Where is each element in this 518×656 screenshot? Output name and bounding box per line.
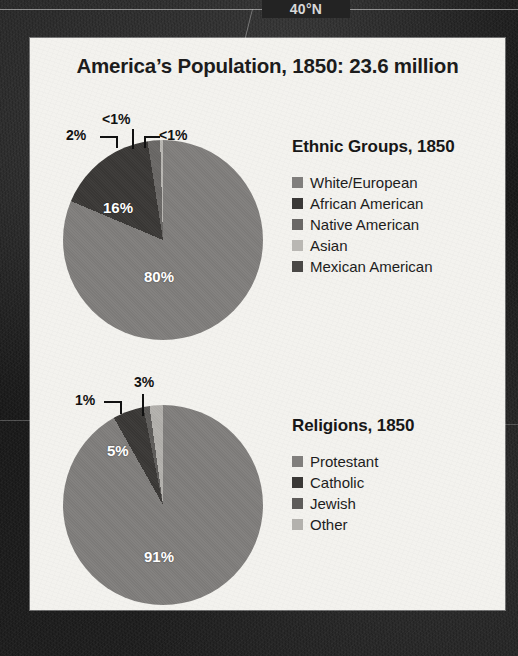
legend-swatch-icon [292, 240, 303, 251]
legend-item-protestant[interactable]: Protestant [292, 452, 414, 471]
pie-religion-slices [63, 405, 263, 605]
legend-religions: Religions, 1850 Protestant Catholic Jewi… [292, 416, 414, 536]
leader-line-other-v [142, 394, 144, 416]
legend-label: Mexican American [310, 257, 433, 276]
callout-label-jewish: 1% [75, 392, 95, 408]
legend-swatch-icon [292, 477, 303, 488]
map-border-line-right [505, 424, 518, 425]
callout-label-asian: <1% [102, 111, 130, 127]
legend-swatch-icon [292, 177, 303, 188]
callout-label-native-american: 2% [66, 127, 86, 143]
legend-swatch-icon [292, 498, 303, 509]
latitude-label: 40°N [262, 0, 350, 18]
leader-line-mexican-v [144, 136, 146, 148]
chart-ethnic-groups: 80% 16% 2% <1% <1% Ethnic Groups, 1850 [30, 93, 505, 343]
leader-line-jewish-v [120, 401, 122, 414]
infographic-panel: America’s Population, 1850: 23.6 million… [30, 38, 505, 610]
legend-swatch-icon [292, 519, 303, 530]
leader-line-native-v [116, 136, 118, 148]
legend-label: Catholic [310, 473, 364, 492]
legend-item-native-american[interactable]: Native American [292, 215, 454, 234]
legend-item-white-european[interactable]: White/European [292, 173, 454, 192]
legend-ethnic-groups: Ethnic Groups, 1850 White/European Afric… [292, 137, 454, 278]
legend-item-other[interactable]: Other [292, 515, 414, 534]
legend-item-asian[interactable]: Asian [292, 236, 454, 255]
legend-title-ethnic: Ethnic Groups, 1850 [292, 137, 454, 157]
legend-label: Jewish [310, 494, 356, 513]
legend-label: African American [310, 194, 423, 213]
pie-religions: 91% 5% 1% 3% [58, 400, 268, 610]
slice-label-catholic: 5% [107, 442, 129, 459]
legend-label: Protestant [310, 452, 378, 471]
slice-label-african-american: 16% [103, 199, 133, 216]
legend-item-african-american[interactable]: African American [292, 194, 454, 213]
callout-label-mexican-american: <1% [159, 127, 187, 143]
slice-label-white-european: 80% [144, 268, 174, 285]
legend-label: Asian [310, 236, 348, 255]
legend-title-religions: Religions, 1850 [292, 416, 414, 436]
chart-religions: 91% 5% 1% 3% Religions, 1850 Protestant [30, 358, 505, 598]
legend-swatch-icon [292, 198, 303, 209]
leader-line-asian-v [132, 129, 134, 149]
legend-item-mexican-american[interactable]: Mexican American [292, 257, 454, 276]
legend-swatch-icon [292, 219, 303, 230]
pie-ethnic-groups: 80% 16% 2% <1% <1% [58, 135, 268, 345]
legend-swatch-icon [292, 456, 303, 467]
page-title: America’s Population, 1850: 23.6 million [30, 54, 505, 78]
legend-item-catholic[interactable]: Catholic [292, 473, 414, 492]
legend-item-jewish[interactable]: Jewish [292, 494, 414, 513]
leader-line-mexican-h [144, 136, 160, 138]
infographic-page: 40°N America’s Population, 1850: 23.6 mi… [0, 0, 518, 656]
pie-ethnic-slices [63, 140, 263, 340]
legend-label: White/European [310, 173, 418, 192]
legend-label: Other [310, 515, 348, 534]
legend-swatch-icon [292, 261, 303, 272]
slice-label-protestant: 91% [144, 548, 174, 565]
legend-label: Native American [310, 215, 419, 234]
latitude-line [0, 9, 518, 10]
callout-label-other: 3% [134, 374, 154, 390]
